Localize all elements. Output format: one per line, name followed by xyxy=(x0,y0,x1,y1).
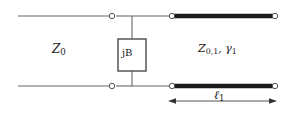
source-impedance-subscript: 0 xyxy=(60,47,66,57)
length-subscript: 1 xyxy=(219,93,225,103)
line-impedance-symbol: Z xyxy=(198,42,206,55)
shunt-susceptance-label: jB xyxy=(122,48,132,58)
top-right-port-node xyxy=(272,13,277,18)
line-gamma-subscript: 1 xyxy=(232,47,237,56)
length-label: ℓ1 xyxy=(214,89,225,103)
bottom-line-start-node xyxy=(169,83,174,88)
length-arrowhead-right xyxy=(269,98,277,104)
top-left-port-node xyxy=(109,13,114,18)
schematic-canvas xyxy=(0,0,292,114)
source-impedance-label: Z0 xyxy=(52,43,66,57)
bottom-right-port-node xyxy=(272,83,277,88)
line-impedance-subscript: 0,1 xyxy=(206,47,219,56)
top-line-start-node xyxy=(169,13,174,18)
line-gamma-symbol: γ xyxy=(225,42,232,55)
bottom-left-port-node xyxy=(109,83,114,88)
transmission-line-schematic: Z0 jB Z0,1, γ1 ℓ1 xyxy=(0,0,292,114)
length-arrowhead-left xyxy=(168,98,176,104)
line-parameters-label: Z0,1, γ1 xyxy=(198,43,237,56)
